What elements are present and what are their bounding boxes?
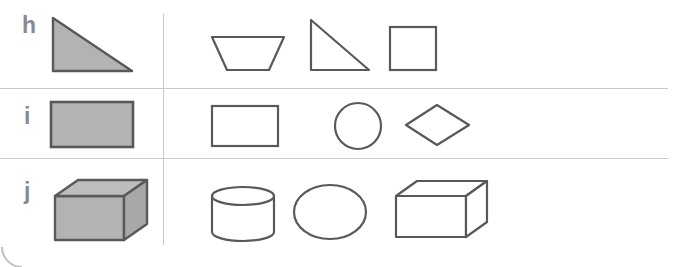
cuboid-shaded (55, 180, 147, 240)
page-corner-arc (2, 247, 22, 267)
right-triangle-shaded (53, 18, 132, 71)
cuboid-outline (396, 181, 487, 237)
trapezoid-outline (212, 37, 284, 70)
shape-layer (0, 0, 681, 267)
rectangle-shaded (51, 102, 133, 147)
rectangle-outline (212, 106, 278, 146)
rhombus-outline (406, 105, 469, 145)
cylinder-outline (212, 187, 274, 241)
ellipse-outline (294, 185, 366, 239)
circle-outline (335, 103, 381, 149)
right-triangle-outline (311, 20, 369, 70)
square-outline (390, 27, 436, 70)
shapes-worksheet: h i j (0, 0, 681, 267)
